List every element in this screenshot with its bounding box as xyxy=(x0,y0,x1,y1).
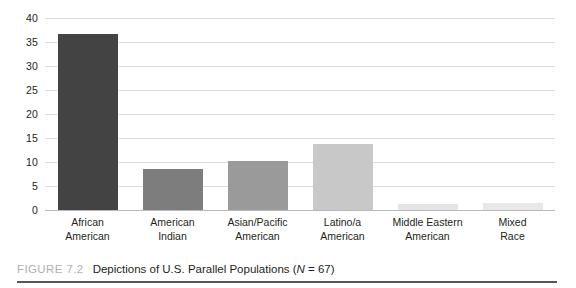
bar xyxy=(143,169,203,210)
figure-number: FIGURE 7.2 xyxy=(17,263,84,275)
x-axis-label-line: American xyxy=(300,230,385,244)
x-axis-label-line: American xyxy=(215,230,300,244)
figure-container: 0510152025303540 AfricanAmericanAmerican… xyxy=(0,0,576,288)
x-axis-label-line: African xyxy=(45,216,130,230)
bar xyxy=(483,203,543,210)
figure-caption: FIGURE 7.2Depictions of U.S. Parallel Po… xyxy=(0,262,576,288)
y-axis-tick-label: 35 xyxy=(12,37,38,48)
bar xyxy=(313,144,373,210)
figure-title-part2: = 67) xyxy=(305,263,335,275)
x-axis-label-line: Race xyxy=(470,230,555,244)
caption-text: FIGURE 7.2Depictions of U.S. Parallel Po… xyxy=(17,262,335,277)
y-axis-tick-label: 20 xyxy=(12,109,38,120)
y-axis-tick-label: 10 xyxy=(12,157,38,168)
caption-divider-rule xyxy=(17,281,557,283)
bars-group xyxy=(45,0,555,218)
x-axis-label-line: Mixed xyxy=(470,216,555,230)
x-axis-label-line: Asian/Pacific xyxy=(215,216,300,230)
figure-title-n-symbol: N xyxy=(297,263,305,275)
x-axis-label-line: American xyxy=(130,216,215,230)
x-axis-category-label: Asian/PacificAmerican xyxy=(215,216,300,243)
y-axis-tick-label: 15 xyxy=(12,133,38,144)
x-axis-label-line: American xyxy=(385,230,470,244)
x-axis-category-label: AfricanAmerican xyxy=(45,216,130,243)
x-axis-category-label: Middle EasternAmerican xyxy=(385,216,470,243)
bar xyxy=(58,34,118,210)
x-axis-label-line: American xyxy=(45,230,130,244)
x-axis-label-line: Indian xyxy=(130,230,215,244)
x-axis-category-label: Latino/aAmerican xyxy=(300,216,385,243)
y-axis-tick-label: 5 xyxy=(12,181,38,192)
y-axis-tick-label: 25 xyxy=(12,85,38,96)
y-axis-tick-label: 0 xyxy=(12,205,38,216)
bar-chart-plot-area: 0510152025303540 xyxy=(0,0,576,218)
x-axis-label-line: Middle Eastern xyxy=(385,216,470,230)
y-axis-tick-label: 40 xyxy=(12,13,38,24)
x-axis-category-labels: AfricanAmericanAmericanIndianAsian/Pacif… xyxy=(45,216,555,258)
figure-title-part1: Depictions of U.S. Parallel Populations … xyxy=(93,263,297,275)
y-axis-tick-label: 30 xyxy=(12,61,38,72)
x-axis-label-line: Latino/a xyxy=(300,216,385,230)
figure-title: Depictions of U.S. Parallel Populations … xyxy=(93,263,335,275)
x-axis-category-label: MixedRace xyxy=(470,216,555,243)
bar xyxy=(398,204,458,210)
x-axis-category-label: AmericanIndian xyxy=(130,216,215,243)
bar xyxy=(228,161,288,210)
